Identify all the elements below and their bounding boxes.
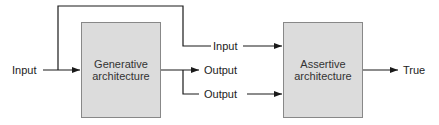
generative-label-line2: architecture [92,70,149,82]
generative-architecture-box: Generative architecture [81,22,161,118]
output-mid-label: Output [203,64,238,76]
input-left-label: Input [11,64,37,76]
output-low-label: Output [203,88,238,100]
assertive-label-line2: architecture [294,70,351,82]
input-top-label: Input [212,40,238,52]
generative-label-line1: Generative [92,58,149,70]
diagram-lines [0,0,439,125]
true-label: True [402,64,426,76]
assertive-architecture-box: Assertive architecture [283,22,363,118]
assertive-label-line1: Assertive [294,58,351,70]
